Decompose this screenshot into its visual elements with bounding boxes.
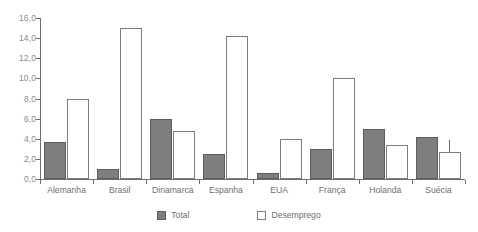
x-axis-tick — [253, 180, 254, 184]
bar-group — [146, 18, 199, 179]
plot-area — [40, 18, 465, 179]
bar-desemprego — [280, 139, 302, 179]
legend-item-total: Total — [157, 210, 189, 220]
legend-swatch-desemprego-icon — [257, 211, 266, 220]
y-axis-tick-label: 10,0 — [2, 73, 36, 83]
bar-total — [44, 142, 66, 179]
x-axis-category-label: EUA — [270, 185, 288, 195]
bar-total — [416, 137, 438, 179]
y-axis-labels: 16,014,012,010,08,06,04,02,00,0 — [0, 0, 36, 232]
y-axis-tick-label: 6,0 — [2, 114, 36, 124]
y-axis-tick-label: 4,0 — [2, 134, 36, 144]
x-axis-tick — [465, 180, 466, 184]
x-axis-tick — [199, 180, 200, 184]
bar-group — [93, 18, 146, 179]
x-axis-category-label: Alemanha — [47, 185, 86, 195]
bar-desemprego — [226, 36, 248, 179]
x-axis-category-label: Holanda — [369, 185, 401, 195]
bar-desemprego — [386, 145, 408, 179]
x-axis-category-label: França — [319, 185, 346, 195]
bar-total — [363, 129, 385, 179]
bar-total — [203, 154, 225, 179]
bar-total — [310, 149, 332, 179]
x-axis-tick — [412, 180, 413, 184]
legend-item-desemprego: Desemprego — [257, 210, 320, 220]
x-axis-tick — [40, 180, 41, 184]
bar-chart: 16,014,012,010,08,06,04,02,00,0 Alemanha… — [0, 0, 478, 232]
x-axis-category-label: Brasil — [109, 185, 131, 195]
bar-group — [199, 18, 252, 179]
bar-desemprego — [439, 152, 461, 179]
bar-group — [306, 18, 359, 179]
bar-group — [253, 18, 306, 179]
chart-legend: Total Desemprego — [0, 206, 478, 224]
y-axis-tick-label: 8,0 — [2, 94, 36, 104]
bar-group — [40, 18, 93, 179]
x-axis-tick — [306, 180, 307, 184]
y-axis-tick-label: 14,0 — [2, 33, 36, 43]
y-axis-tick-label: 16,0 — [2, 13, 36, 23]
y-axis-tick-label: 12,0 — [2, 53, 36, 63]
x-axis-tick — [93, 180, 94, 184]
y-axis-tick-label: 0,0 — [2, 174, 36, 184]
bar-desemprego — [333, 78, 355, 179]
x-axis-category-label: Espanha — [209, 185, 243, 195]
bar-desemprego — [173, 131, 195, 179]
bar-group — [412, 18, 465, 179]
x-axis-tick — [146, 180, 147, 184]
y-axis-tick-label: 2,0 — [2, 154, 36, 164]
x-axis-tick — [359, 180, 360, 184]
x-axis-category-label: Dinamarca — [152, 185, 194, 195]
x-axis-category-label: Suécia — [425, 185, 451, 195]
bar-group — [359, 18, 412, 179]
bar-total — [150, 119, 172, 179]
bar-desemprego — [120, 28, 142, 179]
bar-desemprego — [67, 99, 89, 180]
legend-label-desemprego: Desemprego — [271, 210, 320, 220]
legend-swatch-total-icon — [157, 211, 166, 220]
legend-label-total: Total — [171, 210, 189, 220]
bar-total — [257, 173, 279, 179]
bar-total — [97, 169, 119, 179]
